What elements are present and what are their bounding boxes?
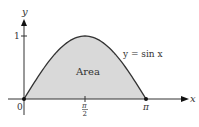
origin-label: 0 [17, 102, 23, 112]
sine-area-chart: y x 1 0 π 2 π y = sin x Area [0, 0, 199, 127]
pi-point [144, 97, 148, 101]
area-label: Area [75, 66, 100, 77]
y-axis-label: y [21, 6, 28, 17]
y-tick-label-1: 1 [14, 31, 20, 41]
origin-point [22, 97, 26, 101]
pi-label: π [142, 102, 150, 112]
y-axis-arrow-icon [21, 19, 27, 26]
pi-half-numerator: π [81, 102, 87, 110]
pi-half-denominator: 2 [83, 110, 87, 118]
x-axis-arrow-icon [181, 96, 189, 102]
x-axis-label: x [190, 93, 196, 104]
chart-svg: y x 1 0 π 2 π y = sin x Area [0, 0, 199, 127]
curve-label: y = sin x [122, 49, 163, 59]
